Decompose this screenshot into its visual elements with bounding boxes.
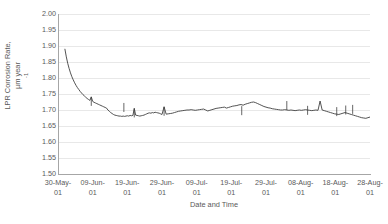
y-axis-title-line2: µm year-1 <box>12 0 33 155</box>
x-axis-title: Date and Time <box>58 200 370 209</box>
y-axis-title-line1: LPR Corrosion Rate, <box>3 0 13 155</box>
x-tick-line1: 28-Aug- <box>344 178 388 188</box>
data-series-line <box>58 14 370 175</box>
y-axis-title: LPR Corrosion Rate, µm year-1 <box>3 0 34 155</box>
x-tick-label: 28-Aug- 01 <box>344 178 388 197</box>
x-tick-line2: 01 <box>344 188 388 198</box>
y-axis-units-exponent: -1 <box>23 73 29 78</box>
y-axis-units: µm year <box>12 0 22 155</box>
y-tick-label: 1.50 <box>2 170 56 178</box>
